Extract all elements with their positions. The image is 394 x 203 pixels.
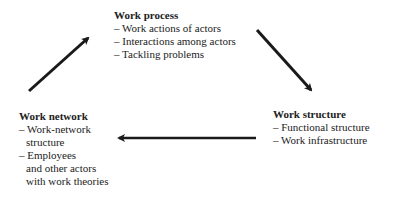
arrow-network-to-process <box>29 38 88 91</box>
node-item: – Work-network <box>19 123 108 136</box>
node-item: structure <box>19 136 108 149</box>
node-item: – Employees <box>19 149 108 162</box>
node-item: – Tackling problems <box>114 48 236 61</box>
node-item: – Work infrastructure <box>273 134 370 147</box>
arrow-process-to-structure <box>257 30 311 90</box>
node-item: with work theories <box>19 175 108 188</box>
node-work-structure: Work structure – Functional structure – … <box>273 108 370 147</box>
node-title: Work structure <box>273 108 370 121</box>
node-work-network: Work network – Work-network structure – … <box>19 110 108 188</box>
node-title: Work network <box>19 110 108 123</box>
node-item: – Interactions among actors <box>114 35 236 48</box>
node-item: – Work actions of actors <box>114 22 236 35</box>
node-work-process: Work process – Work actions of actors – … <box>114 9 236 61</box>
node-item: and other actors <box>19 162 108 175</box>
node-item: – Functional structure <box>273 121 370 134</box>
node-title: Work process <box>114 9 236 22</box>
